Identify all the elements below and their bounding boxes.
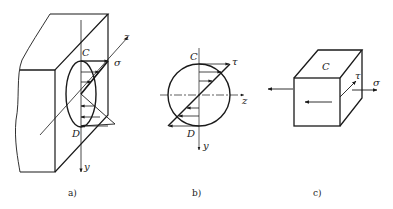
label-b-tau: τ xyxy=(232,56,238,67)
label-b-y: y xyxy=(202,140,209,151)
block-front-face xyxy=(20,70,55,172)
broken-edge xyxy=(15,14,50,172)
label-a-D: D xyxy=(71,128,80,139)
label-a-y: y xyxy=(83,161,90,172)
caption-b: b) xyxy=(192,188,201,198)
figure-a xyxy=(15,14,128,172)
label-b-z: z xyxy=(241,95,248,106)
caption-a: a) xyxy=(68,188,77,198)
element-side xyxy=(340,50,362,126)
label-c-tau: τ xyxy=(355,70,361,81)
label-a-sigma: σ xyxy=(114,57,122,68)
diagram-canvas: C D σ z y a) C D τ z y b) C τ σ c) xyxy=(0,0,393,209)
label-c-C: C xyxy=(322,61,330,72)
block-top-face xyxy=(20,14,108,70)
label-a-C: C xyxy=(82,47,90,58)
label-b-D: D xyxy=(186,128,195,139)
label-b-C: C xyxy=(190,51,198,62)
label-a-z: z xyxy=(123,31,130,42)
label-c-sigma: σ xyxy=(373,77,381,88)
caption-c: c) xyxy=(313,188,322,198)
